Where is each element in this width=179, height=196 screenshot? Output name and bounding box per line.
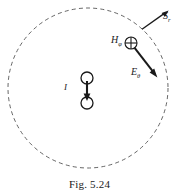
figure-canvas: [0, 0, 179, 196]
electric-field-label: Eθ: [131, 67, 140, 80]
magnetic-field-into-page-icon: [125, 37, 137, 49]
current-label: I: [64, 83, 67, 92]
poynting-vector-label: Sr: [163, 11, 171, 24]
magnetic-field-label: Hφ: [111, 35, 122, 48]
figure-container: Sr Hφ Eθ I Fig. 5.24: [0, 0, 179, 196]
figure-caption: Fig. 5.24: [0, 178, 179, 190]
